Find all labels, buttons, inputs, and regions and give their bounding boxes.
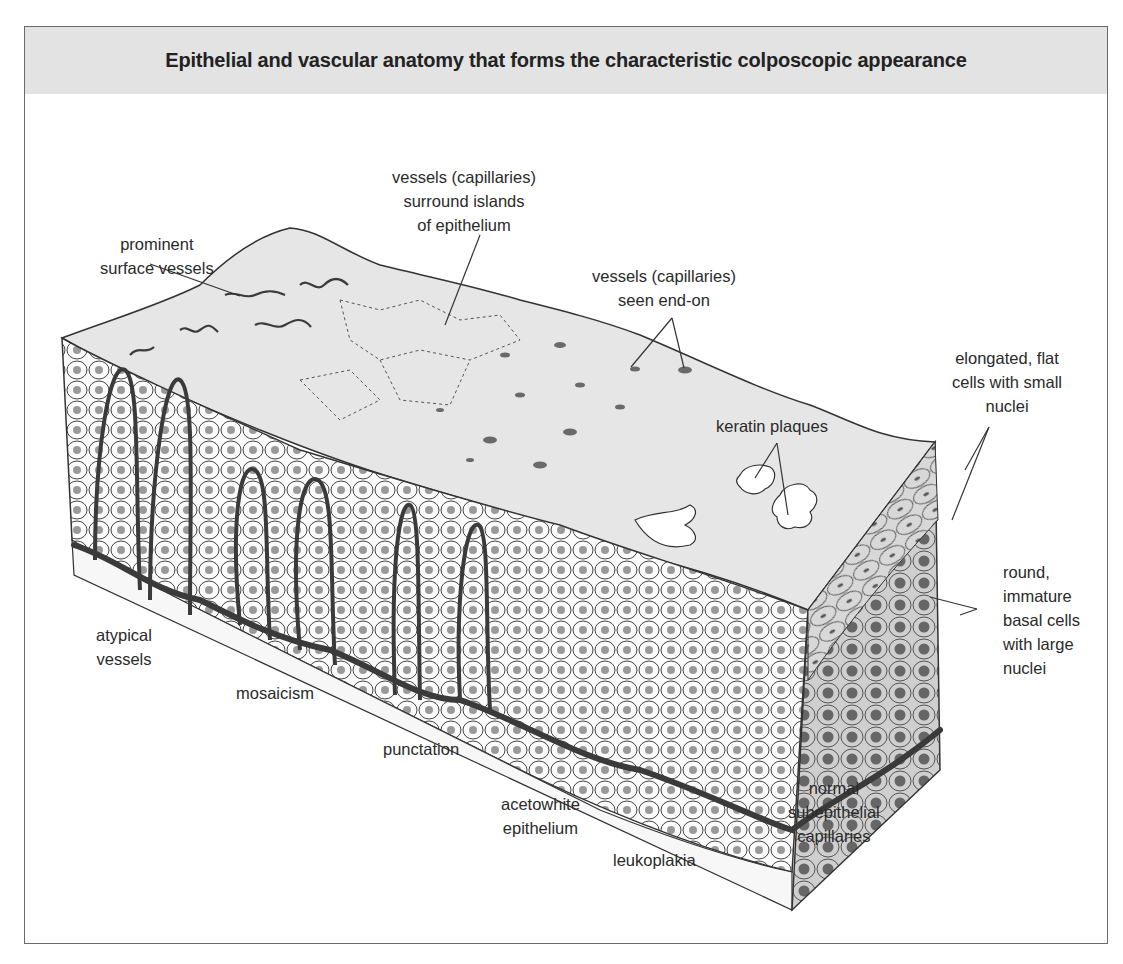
- label-punctation: punctation: [383, 737, 459, 761]
- label-acetowhite-epithelium: acetowhite epithelium: [501, 792, 580, 840]
- label-prominent-surface-vessels: prominent surface vessels: [100, 232, 214, 280]
- label-mosaicism: mosaicism: [236, 681, 314, 705]
- label-keratin-plaques: keratin plaques: [716, 414, 828, 438]
- label-elongated-flat-cells: elongated, flat cells with small nuclei: [952, 346, 1062, 418]
- label-vessels-surround-islands: vessels (capillaries) surround islands o…: [392, 165, 536, 237]
- label-leukoplakia: leukoplakia: [613, 848, 696, 872]
- label-normal-capillaries: normal subepithelial capillaries: [788, 776, 880, 848]
- label-round-basal-cells: round, immature basal cells with large n…: [1003, 560, 1080, 680]
- label-vessels-end-on: vessels (capillaries) seen end-on: [592, 264, 736, 312]
- label-atypical-vessels: atypical vessels: [96, 623, 152, 671]
